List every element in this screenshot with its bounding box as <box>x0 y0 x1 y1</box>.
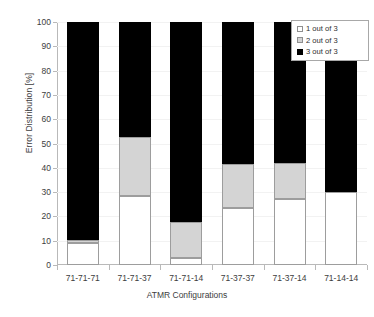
x-axis-title: ATMR Configurations <box>0 290 374 300</box>
legend-item-label: 2 out of 3 <box>306 37 338 45</box>
x-axis-tickmark <box>109 265 110 270</box>
y-axis-tick-label: 70 <box>42 91 51 100</box>
bar-segment-series-2[interactable] <box>170 222 202 257</box>
x-axis-tickmark <box>264 265 265 270</box>
stacked-bar-chart: Error Distribution [%] 01020304050607080… <box>0 0 374 317</box>
y-axis-tick-label: 30 <box>42 188 51 197</box>
bar-group[interactable] <box>170 22 202 265</box>
white-square-icon <box>297 26 303 32</box>
bar-segment-series-1[interactable] <box>170 258 202 265</box>
y-axis-tick-label: 50 <box>42 139 51 148</box>
bar-segment-series-3[interactable] <box>170 22 202 222</box>
bar-segment-series-2[interactable] <box>274 163 306 199</box>
bar-segment-series-1[interactable] <box>325 192 357 265</box>
legend-item[interactable]: 1 out of 3 <box>297 25 364 33</box>
y-axis-tick-label: 100 <box>37 18 51 27</box>
y-axis-tick-label: 80 <box>42 66 51 75</box>
x-axis-tick-label: 71-71-71 <box>66 273 100 283</box>
y-axis-tick-label: 90 <box>42 42 51 51</box>
bar-segment-series-2[interactable] <box>222 164 254 208</box>
x-axis-tickmark <box>160 265 161 270</box>
y-axis-tick-label: 20 <box>42 212 51 221</box>
legend-item-label: 3 out of 3 <box>306 48 338 56</box>
x-axis-tick-label: 71-71-14 <box>169 273 203 283</box>
stacked-bar[interactable] <box>67 22 99 265</box>
stacked-bar[interactable] <box>170 22 202 265</box>
bar-segment-series-1[interactable] <box>274 199 306 265</box>
bar-segment-series-1[interactable] <box>119 196 151 265</box>
bar-group[interactable] <box>222 22 254 265</box>
bar-segment-series-2[interactable] <box>119 137 151 195</box>
stacked-bar[interactable] <box>119 22 151 265</box>
gray-square-icon <box>297 37 303 43</box>
y-axis-tick-labels: 0102030405060708090100 <box>25 22 51 265</box>
bar-segment-series-1[interactable] <box>222 208 254 265</box>
bar-group[interactable] <box>67 22 99 265</box>
x-axis-tick-label: 71-37-14 <box>272 273 306 283</box>
y-axis-tick-label: 40 <box>42 164 51 173</box>
bar-group[interactable] <box>119 22 151 265</box>
x-axis-tickmark <box>57 265 58 270</box>
legend-item-label: 1 out of 3 <box>306 25 338 33</box>
bar-segment-series-1[interactable] <box>67 243 99 265</box>
bar-segment-series-3[interactable] <box>222 22 254 164</box>
y-axis-tick-label: 0 <box>46 261 51 270</box>
legend: 1 out of 32 out of 33 out of 3 <box>291 20 369 61</box>
x-axis-tickmark <box>367 265 368 270</box>
bar-segment-series-2[interactable] <box>67 240 99 244</box>
legend-item[interactable]: 3 out of 3 <box>297 48 364 56</box>
x-axis-tickmark <box>315 265 316 270</box>
black-square-icon <box>297 49 303 55</box>
legend-item[interactable]: 2 out of 3 <box>297 37 364 45</box>
y-axis-tick-label: 60 <box>42 115 51 124</box>
y-axis-tick-label: 10 <box>42 236 51 245</box>
x-axis-tick-label: 71-37-37 <box>221 273 255 283</box>
x-axis-tick-label: 71-71-37 <box>117 273 151 283</box>
x-axis-tick-label: 71-14-14 <box>324 273 358 283</box>
x-axis-tickmark <box>212 265 213 270</box>
stacked-bar[interactable] <box>222 22 254 265</box>
bar-segment-series-3[interactable] <box>119 22 151 137</box>
bar-segment-series-3[interactable] <box>67 22 99 239</box>
